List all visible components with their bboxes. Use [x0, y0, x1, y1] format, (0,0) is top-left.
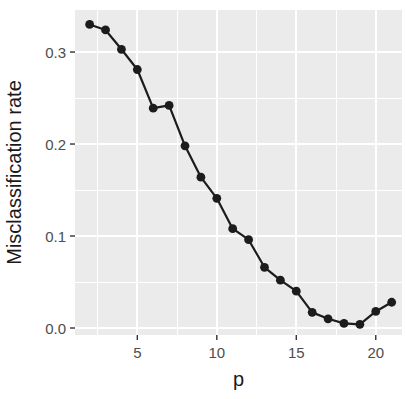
data-point: [324, 314, 333, 323]
data-point: [387, 298, 396, 307]
misclassification-rate-figure: 51015200.00.10.20.3 p Misclassification …: [0, 0, 406, 399]
data-point: [133, 65, 142, 74]
data-point: [276, 276, 285, 285]
y-axis-title: Misclassification rate: [3, 80, 25, 265]
data-point: [149, 104, 158, 113]
data-point: [308, 308, 317, 317]
data-point: [212, 194, 221, 203]
x-axis-title: p: [233, 368, 244, 390]
data-point: [197, 173, 206, 182]
data-point: [340, 319, 349, 328]
line-chart: 51015200.00.10.20.3 p Misclassification …: [0, 0, 406, 399]
y-tick-label: 0.1: [45, 228, 66, 245]
y-tick-label: 0.2: [45, 136, 66, 153]
data-point: [85, 20, 94, 29]
y-tick-label: 0.0: [45, 320, 66, 337]
x-tick-label: 10: [208, 344, 225, 361]
data-point: [228, 224, 237, 233]
x-tick-label: 5: [133, 344, 141, 361]
data-point: [244, 235, 253, 244]
x-tick-label: 15: [288, 344, 305, 361]
data-point: [355, 320, 364, 329]
data-point: [292, 287, 301, 296]
x-tick-label: 20: [367, 344, 384, 361]
chart-panel: [75, 10, 402, 335]
data-point: [165, 101, 174, 110]
data-point: [117, 45, 126, 54]
data-point: [101, 26, 110, 35]
data-point: [371, 307, 380, 316]
data-point: [181, 141, 190, 150]
panel-background: [75, 10, 402, 335]
data-point: [260, 263, 269, 272]
y-tick-label: 0.3: [45, 44, 66, 61]
